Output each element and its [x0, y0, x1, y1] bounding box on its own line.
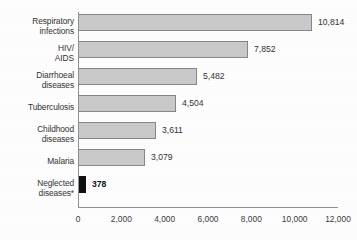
bar-tuberculosis	[78, 95, 176, 112]
x-tick-label-0: 0	[76, 214, 81, 224]
bar-chart: Respiratory infections HIV/ AIDS Diarrho…	[0, 0, 357, 240]
x-tick-label-6000: 6,000	[198, 214, 219, 224]
bar-value-childhood-diseases: 3,611	[162, 122, 183, 139]
plot-area: Respiratory infections HIV/ AIDS Diarrho…	[0, 0, 357, 240]
bar-diarrhoeal-diseases	[78, 68, 197, 85]
category-label-tuberculosis: Tuberculosis	[2, 103, 74, 113]
bar-value-hiv-aids: 7,852	[254, 41, 276, 58]
category-label-neglected-diseases: Neglected diseases*	[2, 179, 74, 198]
x-tick-label-10000: 10,000	[282, 214, 308, 224]
category-label-respiratory-infections: Respiratory infections	[2, 17, 74, 36]
bar-neglected-diseases	[78, 176, 86, 193]
category-label-childhood-diseases: Childhood diseases	[2, 125, 74, 144]
x-tick-label-12000: 12,000	[325, 214, 351, 224]
bar-value-malaria: 3,079	[151, 149, 173, 166]
bar-value-tuberculosis: 4,504	[182, 95, 204, 112]
x-tick-label-2000: 2,000	[111, 214, 132, 224]
category-label-malaria: Malaria	[2, 157, 74, 167]
y-axis-line	[78, 12, 79, 208]
bar-childhood-diseases	[78, 122, 156, 139]
category-label-diarrhoeal-diseases: Diarrhoeal diseases	[2, 71, 74, 90]
bar-value-diarrhoeal-diseases: 5,482	[203, 68, 225, 85]
bar-value-respiratory-infections: 10,814	[318, 14, 344, 31]
x-tick-label-8000: 8,000	[241, 214, 262, 224]
bar-malaria	[78, 149, 145, 166]
x-axis-line	[78, 207, 338, 208]
category-label-hiv-aids: HIV/ AIDS	[2, 44, 74, 63]
bar-hiv-aids	[78, 41, 248, 58]
bar-value-neglected-diseases: 378	[92, 176, 106, 193]
bar-respiratory-infections	[78, 14, 312, 31]
x-tick-label-4000: 4,000	[154, 214, 175, 224]
